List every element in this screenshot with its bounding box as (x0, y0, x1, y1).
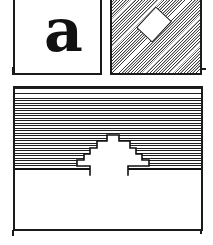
corner-tick (200, 230, 202, 234)
corner-tick (12, 230, 14, 236)
rotated-square-icon (136, 6, 172, 42)
diagonal-hatch-panel (110, 0, 202, 75)
corner-tick (12, 67, 14, 75)
main-block-panel (13, 86, 203, 231)
stepped-notch-shape (15, 88, 201, 229)
panel-letter-a: a (44, 0, 83, 60)
corner-tick (201, 68, 206, 70)
label-box-panel: a (13, 0, 102, 75)
stepped-notch-path (77, 135, 149, 175)
